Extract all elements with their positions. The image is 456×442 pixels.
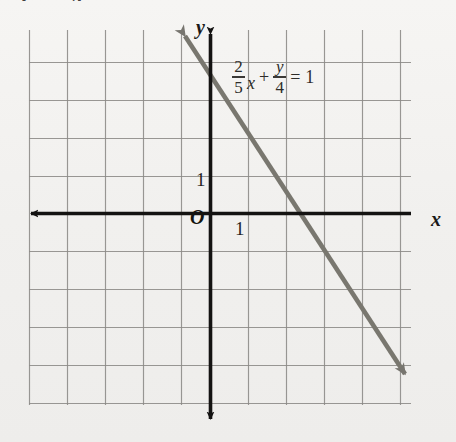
grid-horizontal-lines	[29, 63, 411, 404]
y-axis-label: y	[196, 16, 205, 39]
fraction-numerator: 2	[232, 58, 245, 75]
coordinate-plane	[0, 0, 456, 442]
x-axis-tick-label-1: 1	[235, 218, 245, 240]
worksheet-page: 5 4	[0, 0, 456, 442]
equation-equals-sign: =	[287, 67, 303, 88]
fraction-two-fifths: 2 5	[232, 58, 245, 96]
fraction-numerator: y	[274, 58, 286, 75]
fraction-y-over-four: y 4	[273, 58, 286, 96]
fraction-denominator: 5	[232, 79, 245, 96]
origin-label: O	[190, 206, 204, 229]
equation-variable-x: x	[246, 73, 256, 94]
y-axis-tick-label-1: 1	[196, 169, 206, 191]
fraction-denominator: 4	[273, 79, 286, 96]
equation-label: 2 5 x + y 4 = 1	[231, 58, 314, 96]
x-axis-label: x	[431, 208, 441, 231]
equation-right-hand-side: 1	[303, 67, 314, 88]
equation-plus-operator: +	[256, 67, 272, 88]
